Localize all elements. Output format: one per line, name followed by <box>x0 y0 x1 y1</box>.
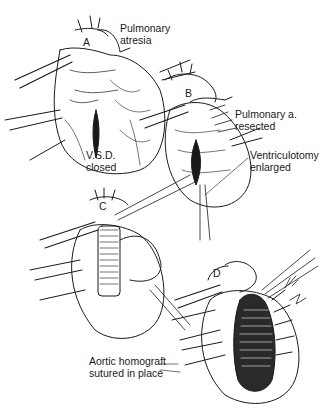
label-vsd-closed: V.S.D. closed <box>86 149 116 173</box>
label-pulmonary-atresia: Pulmonary atresia <box>120 22 170 46</box>
heart-panel-d <box>172 250 318 403</box>
heart-panel-b <box>140 62 262 240</box>
label-ventriculotomy-enlarged: Ventriculotomy enlarged <box>250 149 319 173</box>
leader-ventriculotomy <box>205 158 248 195</box>
panel-label-d: D <box>213 267 221 279</box>
panel-label-a: A <box>83 36 90 48</box>
label-aortic-homograft: Aortic homograft sutured in place <box>89 355 166 379</box>
panel-label-c: C <box>99 200 107 212</box>
surgical-illustration: A B C D Pulmonary atresia Pulmonary a. r… <box>0 0 324 418</box>
label-pulmonary-a-resected: Pulmonary a. resected <box>235 108 297 132</box>
panel-label-b: B <box>185 87 192 99</box>
heart-panel-c <box>30 175 195 338</box>
